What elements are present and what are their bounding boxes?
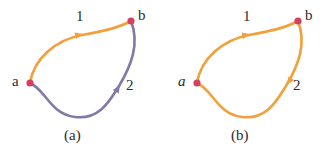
figure-root: 1 2 a b (a) 1 2 a b (b) bbox=[0, 0, 333, 158]
panel-a-path-1 bbox=[30, 21, 131, 83]
panel-b-edge-label-1: 1 bbox=[243, 9, 251, 24]
panel-b-vertex-a bbox=[193, 79, 200, 86]
panel-b-path-1 bbox=[197, 21, 298, 83]
panel-a-vertex-b bbox=[127, 17, 134, 24]
panel-a-vertex-label-b: b bbox=[138, 8, 146, 23]
panel-b-edge-label-2: 2 bbox=[293, 78, 301, 93]
panel-b-vertex-label-b: b bbox=[305, 8, 313, 23]
panel-a: 1 2 a b (a) bbox=[0, 0, 166, 158]
panel-b: 1 2 a b (b) bbox=[167, 0, 333, 158]
panel-a-vertex-label-a: a bbox=[12, 74, 19, 89]
panel-b-vertex-b bbox=[294, 17, 301, 24]
panel-a-edge-label-1: 1 bbox=[76, 9, 84, 24]
panel-b-caption: (b) bbox=[231, 128, 249, 143]
panel-b-vertex-label-a: a bbox=[178, 74, 186, 89]
panel-a-vertex-a bbox=[26, 79, 33, 86]
panel-a-edge-label-2: 2 bbox=[126, 78, 134, 93]
panel-a-caption: (a) bbox=[64, 128, 81, 143]
